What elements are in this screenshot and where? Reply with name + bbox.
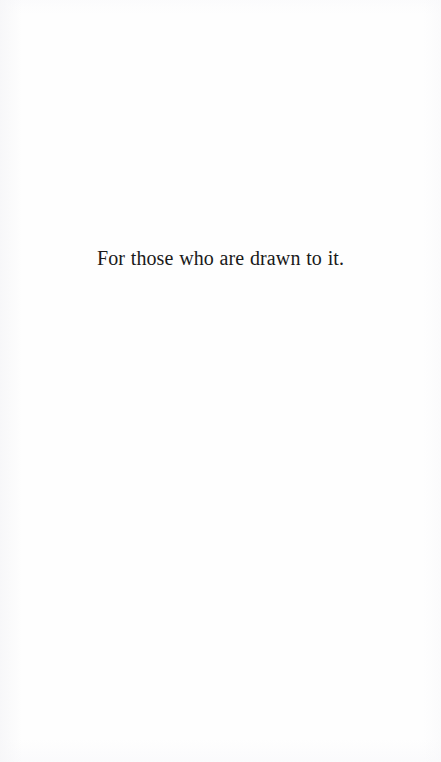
book-page: For those who are drawn to it.	[0, 0, 441, 762]
dedication-text: For those who are drawn to it.	[97, 248, 344, 268]
dedication-block: For those who are drawn to it.	[0, 248, 441, 268]
